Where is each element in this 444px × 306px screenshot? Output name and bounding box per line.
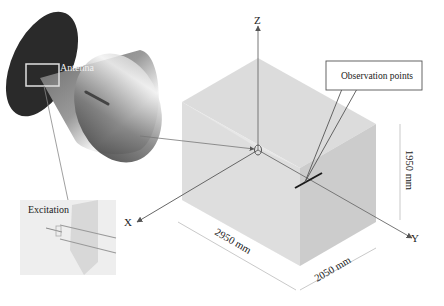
axis-label-x: X <box>124 216 132 228</box>
antenna-label: Antenna <box>60 62 94 73</box>
axis-label-y: Y <box>411 232 419 244</box>
dim-width-label: 2050 mm <box>313 254 353 284</box>
antenna-model: Antenna <box>0 1 177 175</box>
dim-height-label: 1950 mm <box>404 150 415 190</box>
axis-label-z: Z <box>254 14 261 26</box>
excitation-inset: Excitation <box>20 200 116 275</box>
excitation-label: Excitation <box>28 204 69 215</box>
observation-callout-label: Observation points <box>341 71 413 81</box>
diagram-canvas: Z X Y Antenna Excitation Observation poi… <box>0 0 444 306</box>
